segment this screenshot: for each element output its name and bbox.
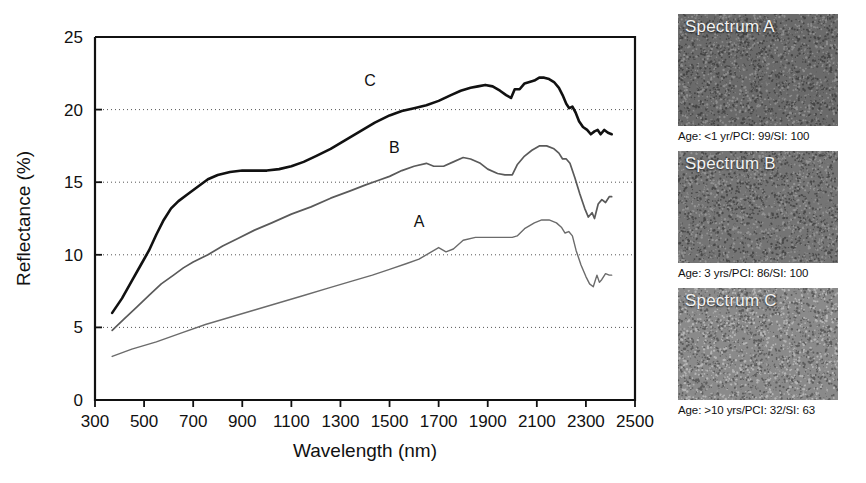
y-tick-label: 10 bbox=[64, 246, 83, 265]
spectrum-swatch-label: Spectrum A bbox=[685, 17, 775, 37]
x-tick-label: 300 bbox=[81, 412, 109, 431]
spectrum-panel-caption: Age: 3 yrs/PCI: 86/SI: 100 bbox=[678, 267, 866, 279]
reflectance-chart: 3005007009001100130015001700190021002300… bbox=[0, 0, 660, 483]
x-tick-label: 1700 bbox=[420, 412, 458, 431]
x-tick-label: 1900 bbox=[469, 412, 507, 431]
spectrum-swatch: Spectrum C bbox=[678, 288, 838, 400]
curve-label-c: C bbox=[364, 72, 376, 89]
spectrum-swatch: Spectrum B bbox=[678, 151, 838, 263]
x-tick-label: 900 bbox=[228, 412, 256, 431]
y-axis-title: Reflectance (%) bbox=[13, 151, 34, 286]
y-tick-label: 20 bbox=[64, 101, 83, 120]
series-curve-b bbox=[112, 146, 612, 330]
spectrum-swatch-label: Spectrum C bbox=[685, 291, 777, 311]
plot-frame bbox=[95, 37, 635, 400]
y-tick-label: 25 bbox=[64, 28, 83, 47]
spectrum-swatch: Spectrum A bbox=[678, 14, 838, 126]
x-tick-label: 2300 bbox=[567, 412, 605, 431]
spectral-reflectance-figure: 3005007009001100130015001700190021002300… bbox=[0, 0, 866, 483]
series-curve-a bbox=[112, 220, 612, 356]
chart-canvas: 3005007009001100130015001700190021002300… bbox=[0, 0, 660, 483]
spectrum-swatch-label: Spectrum B bbox=[685, 154, 776, 174]
spectrum-panel: Spectrum A Age: <1 yr/PCI: 99/SI: 100 bbox=[678, 14, 866, 142]
y-tick-label: 0 bbox=[74, 391, 83, 410]
spectrum-panel-caption: Age: >10 yrs/PCI: 32/SI: 63 bbox=[678, 404, 866, 416]
y-tick-label: 5 bbox=[74, 318, 83, 337]
x-axis-title: Wavelength (nm) bbox=[293, 440, 437, 461]
x-tick-label: 500 bbox=[130, 412, 158, 431]
x-tick-label: 2100 bbox=[518, 412, 556, 431]
x-tick-label: 1300 bbox=[322, 412, 360, 431]
spectrum-panel: Spectrum B Age: 3 yrs/PCI: 86/SI: 100 bbox=[678, 151, 866, 279]
curve-label-b: B bbox=[389, 139, 400, 156]
x-tick-label: 2500 bbox=[616, 412, 654, 431]
x-tick-label: 1500 bbox=[371, 412, 409, 431]
spectrum-image-panels: Spectrum A Age: <1 yr/PCI: 99/SI: 100 Sp… bbox=[660, 0, 866, 483]
curve-label-a: A bbox=[414, 213, 425, 230]
spectrum-panel: Spectrum C Age: >10 yrs/PCI: 32/SI: 63 bbox=[678, 288, 866, 416]
spectrum-panel-caption: Age: <1 yr/PCI: 99/SI: 100 bbox=[678, 130, 866, 142]
x-tick-label: 700 bbox=[179, 412, 207, 431]
y-tick-label: 15 bbox=[64, 173, 83, 192]
x-tick-label: 1100 bbox=[273, 412, 310, 431]
